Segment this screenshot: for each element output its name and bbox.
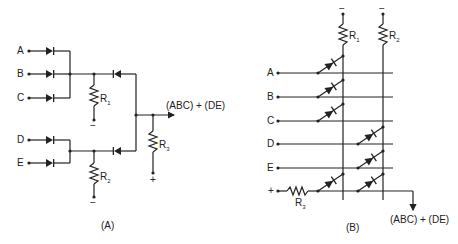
caption-b: (B): [346, 222, 359, 233]
b-input-label-a: A: [267, 68, 274, 78]
caption-a: (A): [101, 220, 114, 231]
input-label-a: A: [17, 46, 24, 56]
b-input-label-b: B: [267, 92, 274, 102]
input-label-c: C: [17, 93, 24, 103]
b-r3-label: R3: [295, 198, 306, 212]
b-r1-label: R1: [349, 31, 360, 45]
input-label-b: B: [17, 69, 24, 79]
minus-supply-r2: −: [90, 198, 96, 208]
r2-label: R2: [100, 172, 111, 186]
r3-label: R3: [159, 140, 170, 154]
b-input-label-e: E: [267, 163, 274, 173]
r1-label: R1: [100, 94, 111, 108]
b-minus-supply-2: −: [379, 4, 385, 14]
plus-supply-r3: +: [150, 175, 156, 185]
input-label-e: E: [17, 158, 24, 168]
b-r2-label: R2: [389, 31, 400, 45]
minus-supply-r1: −: [90, 121, 96, 131]
output-label-b: (ABC) + (DE): [390, 215, 449, 225]
b-minus-supply-1: −: [339, 4, 345, 14]
b-plus-input: +: [268, 186, 274, 196]
input-label-d: D: [17, 135, 24, 145]
b-input-label-c: C: [267, 116, 274, 126]
output-label-a: (ABC) + (DE): [166, 101, 225, 111]
circuit-b-diodes: [276, 12, 384, 192]
b-input-label-d: D: [267, 139, 274, 149]
